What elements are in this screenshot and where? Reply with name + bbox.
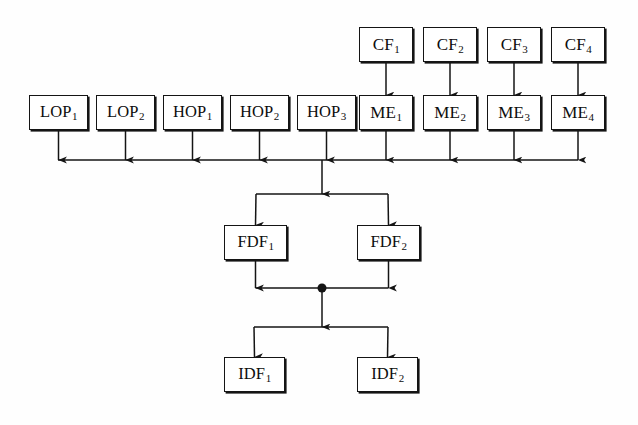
node-subscript-cf4: 4	[586, 43, 592, 55]
node-subscript-idf1: 1	[266, 372, 272, 384]
node-subscript-fdf2: 2	[401, 240, 407, 252]
node-label-hop2: HOP2	[240, 104, 279, 121]
node-box-fdf2[interactable]: FDF2	[357, 225, 420, 260]
node-label-idf1: IDF1	[238, 366, 271, 383]
node-label-idf2: IDF2	[371, 366, 404, 383]
arrow-split-to-idf2	[388, 327, 389, 357]
node-label-me3: ME3	[498, 104, 529, 121]
fdf-merge-dot	[318, 284, 327, 293]
node-box-hop2[interactable]: HOP2	[230, 95, 289, 130]
node-subscript-cf2: 2	[458, 43, 464, 55]
node-box-idf1[interactable]: IDF1	[224, 357, 285, 392]
node-label-cf2: CF2	[437, 36, 464, 53]
node-box-idf2[interactable]: IDF2	[357, 357, 418, 392]
diagram-connectors	[0, 0, 638, 425]
arrow-split-to-fdf1	[256, 194, 257, 225]
node-box-lop1[interactable]: LOP1	[29, 95, 88, 130]
node-subscript-cf3: 3	[522, 43, 528, 55]
node-label-me4: ME4	[562, 104, 593, 121]
node-box-hop1[interactable]: HOP1	[163, 95, 222, 130]
node-label-lop2: LOP2	[107, 104, 144, 121]
node-subscript-cf1: 1	[394, 43, 400, 55]
node-box-cf1[interactable]: CF1	[359, 27, 413, 62]
node-box-me1[interactable]: ME1	[359, 95, 413, 130]
node-subscript-me3: 3	[525, 111, 531, 123]
node-subscript-me2: 2	[461, 111, 467, 123]
node-label-lop1: LOP1	[40, 104, 77, 121]
node-subscript-me1: 1	[397, 111, 403, 123]
node-label-me2: ME2	[434, 104, 465, 121]
node-box-cf2[interactable]: CF2	[423, 27, 477, 62]
node-box-me4[interactable]: ME4	[551, 95, 605, 130]
node-box-fdf1[interactable]: FDF1	[224, 225, 287, 260]
arrow-split-to-idf1	[254, 327, 255, 357]
node-label-fdf1: FDF1	[237, 234, 273, 251]
node-label-cf3: CF3	[501, 36, 528, 53]
node-box-lop2[interactable]: LOP2	[96, 95, 155, 130]
node-box-cf4[interactable]: CF4	[551, 27, 605, 62]
node-label-cf4: CF4	[565, 36, 592, 53]
node-subscript-lop1: 1	[72, 110, 78, 122]
arrow-split-to-fdf2	[388, 194, 389, 225]
node-subscript-lop2: 2	[139, 110, 145, 122]
node-label-hop1: HOP1	[173, 104, 212, 121]
node-subscript-hop1: 1	[207, 110, 213, 122]
node-subscript-idf2: 2	[399, 372, 405, 384]
node-label-me1: ME1	[370, 104, 401, 121]
node-box-cf3[interactable]: CF3	[487, 27, 541, 62]
node-box-me3[interactable]: ME3	[487, 95, 541, 130]
node-box-hop3[interactable]: HOP3	[297, 95, 356, 130]
diagram-canvas: CF1CF2CF3CF4LOP1LOP2HOP1HOP2HOP3ME1ME2ME…	[0, 0, 638, 425]
node-subscript-fdf1: 1	[268, 240, 274, 252]
node-subscript-hop3: 3	[341, 110, 347, 122]
node-label-cf1: CF1	[373, 36, 400, 53]
node-box-me2[interactable]: ME2	[423, 95, 477, 130]
node-label-hop3: HOP3	[307, 104, 346, 121]
node-subscript-hop2: 2	[274, 110, 280, 122]
node-label-fdf2: FDF2	[370, 234, 406, 251]
node-subscript-me4: 4	[589, 111, 595, 123]
